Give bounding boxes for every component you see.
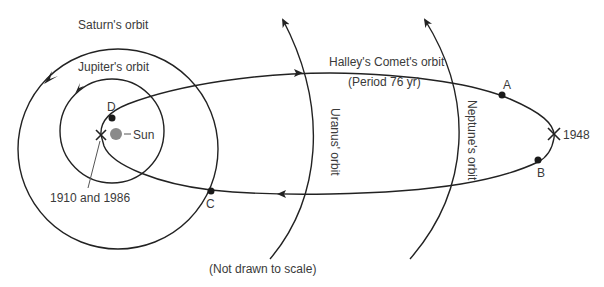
point-d-icon — [109, 115, 116, 122]
uranus-orbit — [270, 20, 313, 259]
point-a-icon — [499, 92, 506, 99]
aphelion-year-label: 1948 — [563, 128, 590, 142]
comet-direction-arrow-icon — [294, 69, 303, 77]
jupiter-orbit-label: Jupiter's orbit — [78, 60, 150, 74]
comet-orbit — [101, 69, 554, 198]
uranus-orbit-label: Uranus' orbit — [328, 108, 342, 176]
point-c-label: C — [206, 197, 215, 211]
point-c-icon — [208, 188, 215, 195]
saturn-orbit-label: Saturn's orbit — [78, 18, 149, 32]
perihelion-years-label: 1910 and 1986 — [50, 191, 130, 205]
period-label: (Period 76 yr) — [348, 75, 421, 89]
point-b-label: B — [537, 166, 545, 180]
point-d-label: D — [107, 100, 116, 114]
comet-orbit-label: Halley's Comet's orbit — [329, 55, 445, 69]
saturn-orbit-arrow-icon — [44, 71, 58, 84]
sun-label: Sun — [133, 128, 154, 142]
not-to-scale-note: (Not drawn to scale) — [209, 262, 316, 276]
point-a-label: A — [503, 78, 511, 92]
halley-comet-orbit-diagram: Saturn's orbit Jupiter's orbit Halley's … — [0, 0, 604, 287]
neptune-orbit-label: Neptune's orbit — [465, 100, 479, 181]
sun-icon — [110, 128, 122, 140]
point-b-icon — [535, 157, 542, 164]
